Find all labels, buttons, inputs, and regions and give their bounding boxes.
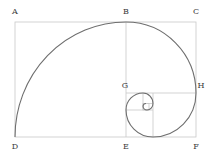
label-E: E <box>123 143 129 151</box>
label-C: C <box>193 8 199 16</box>
diagram-canvas <box>0 0 215 160</box>
label-H: H <box>198 82 205 90</box>
golden-spiral-diagram: A B C G H D E F <box>0 0 215 160</box>
label-F: F <box>193 143 199 151</box>
label-D: D <box>12 143 18 151</box>
label-B: B <box>123 8 129 16</box>
golden-spiral <box>15 22 196 137</box>
outer-rectangle <box>15 22 196 137</box>
label-G: G <box>122 82 128 90</box>
grid-lines <box>15 22 196 137</box>
label-A: A <box>12 8 18 16</box>
